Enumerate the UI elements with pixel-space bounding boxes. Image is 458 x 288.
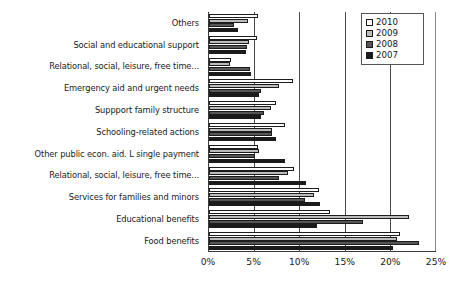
- legend-swatch-icon: [366, 52, 373, 59]
- bar-2008[interactable]: [209, 89, 261, 93]
- bar-2009[interactable]: [209, 215, 409, 219]
- bar-2009[interactable]: [209, 84, 279, 88]
- bar-2008[interactable]: [209, 23, 234, 27]
- bar-2007[interactable]: [209, 224, 317, 228]
- bar-2007[interactable]: [209, 159, 285, 163]
- bar-2008[interactable]: [209, 154, 255, 158]
- bar-group: [209, 99, 435, 121]
- bar-2010[interactable]: [209, 210, 330, 214]
- bar-2009[interactable]: [209, 193, 314, 197]
- bar-2009[interactable]: [209, 106, 271, 110]
- bar-2007[interactable]: [209, 246, 393, 250]
- bar-2010[interactable]: [209, 79, 293, 83]
- bar-2007[interactable]: [209, 28, 238, 32]
- bar-group: [209, 121, 435, 143]
- bar-row: [209, 89, 435, 93]
- bar-2008[interactable]: [209, 241, 419, 245]
- bar-2007[interactable]: [209, 50, 246, 54]
- bar-2007[interactable]: [209, 93, 259, 97]
- category-label: Relational, social, leisure, free time..…: [0, 165, 204, 187]
- bar-row: [209, 149, 435, 153]
- bar-2010[interactable]: [209, 101, 276, 105]
- bar-2010[interactable]: [209, 145, 258, 149]
- bar-2010[interactable]: [209, 167, 294, 171]
- legend-swatch-icon: [366, 30, 373, 37]
- x-tick-label: 25%: [426, 256, 446, 267]
- bar-2008[interactable]: [209, 176, 279, 180]
- bar-2008[interactable]: [209, 111, 264, 115]
- category-label: Schooling-related actions: [0, 121, 204, 143]
- bar-row: [209, 181, 435, 185]
- bar-row: [209, 154, 435, 158]
- bar-2009[interactable]: [209, 19, 248, 23]
- bar-2007[interactable]: [209, 137, 276, 141]
- category-label: Educational benefits: [0, 208, 204, 230]
- bar-row: [209, 215, 435, 219]
- legend-label: 2010: [376, 18, 398, 27]
- bar-row: [209, 137, 435, 141]
- bar-2007[interactable]: [209, 202, 320, 206]
- bar-row: [209, 176, 435, 180]
- x-tick-label: 10%: [289, 256, 309, 267]
- bar-row: [209, 128, 435, 132]
- bar-2008[interactable]: [209, 132, 272, 136]
- bar-2008[interactable]: [209, 220, 363, 224]
- bar-row: [209, 123, 435, 127]
- bar-2010[interactable]: [209, 14, 258, 18]
- bar-row: [209, 101, 435, 105]
- bar-row: [209, 193, 435, 197]
- bar-row: [209, 198, 435, 202]
- bar-row: [209, 224, 435, 228]
- chart-legend: 2010200920082007: [361, 13, 424, 65]
- bar-row: [209, 106, 435, 110]
- bar-row: [209, 167, 435, 171]
- bar-row: [209, 93, 435, 97]
- x-tick-label: 0%: [201, 256, 216, 267]
- legend-label: 2008: [376, 40, 398, 49]
- bar-2009[interactable]: [209, 62, 230, 66]
- bar-2009[interactable]: [209, 40, 249, 44]
- x-tick-label: 5%: [246, 256, 261, 267]
- bar-row: [209, 84, 435, 88]
- legend-item[interactable]: 2007: [366, 50, 419, 61]
- bar-row: [209, 72, 435, 76]
- bar-group: [209, 208, 435, 230]
- category-label: Relational, social, leisure, free time..…: [0, 56, 204, 78]
- bar-2009[interactable]: [209, 149, 259, 153]
- bar-2010[interactable]: [209, 58, 231, 62]
- bar-2010[interactable]: [209, 36, 257, 40]
- bar-group: [209, 77, 435, 99]
- bar-2009[interactable]: [209, 171, 288, 175]
- bar-row: [209, 188, 435, 192]
- x-axis-line: [208, 251, 436, 252]
- legend-item[interactable]: 2009: [366, 28, 419, 39]
- bar-row: [209, 145, 435, 149]
- x-tick-label: 15%: [335, 256, 355, 267]
- bar-2008[interactable]: [209, 198, 305, 202]
- category-label: Services for families and minors: [0, 187, 204, 209]
- category-label: Others: [0, 12, 204, 34]
- bar-group: [209, 143, 435, 165]
- bar-row: [209, 132, 435, 136]
- legend-item[interactable]: 2010: [366, 17, 419, 28]
- legend-item[interactable]: 2008: [366, 39, 419, 50]
- bar-2010[interactable]: [209, 123, 285, 127]
- bar-2010[interactable]: [209, 232, 400, 236]
- bar-row: [209, 210, 435, 214]
- bar-2007[interactable]: [209, 115, 261, 119]
- bar-2007[interactable]: [209, 72, 251, 76]
- category-label: Other public econ. aid. L single payment: [0, 143, 204, 165]
- bar-2009[interactable]: [209, 128, 272, 132]
- bar-row: [209, 115, 435, 119]
- bar-2007[interactable]: [209, 181, 306, 185]
- bar-row: [209, 241, 435, 245]
- legend-label: 2009: [376, 29, 398, 38]
- bar-row: [209, 159, 435, 163]
- bar-2008[interactable]: [209, 67, 250, 71]
- category-label: Emergency aid and urgent needs: [0, 77, 204, 99]
- bar-2009[interactable]: [209, 237, 397, 241]
- category-label: Food benefits: [0, 230, 204, 252]
- bar-2008[interactable]: [209, 45, 247, 49]
- bar-2010[interactable]: [209, 188, 319, 192]
- bar-group: [209, 165, 435, 187]
